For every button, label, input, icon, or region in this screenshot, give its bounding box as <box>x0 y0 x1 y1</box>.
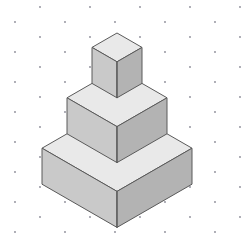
grid-dot <box>189 96 191 98</box>
grid-dot <box>89 6 91 8</box>
grid-dot <box>64 21 66 23</box>
grid-dot <box>114 21 116 23</box>
grid-dot <box>239 66 241 68</box>
grid-dot <box>239 96 241 98</box>
grid-dot <box>214 81 216 83</box>
grid-dot <box>239 36 241 38</box>
grid-dot <box>64 201 66 203</box>
grid-dot <box>214 201 216 203</box>
grid-dot <box>239 126 241 128</box>
grid-dot <box>214 111 216 113</box>
grid-dot <box>14 201 16 203</box>
grid-dot <box>39 126 41 128</box>
grid-dot <box>189 126 191 128</box>
grid-dot <box>39 66 41 68</box>
grid-dot <box>14 51 16 53</box>
isometric-pyramid-svg <box>0 0 244 247</box>
grid-dot <box>89 66 91 68</box>
grid-dot <box>189 66 191 68</box>
grid-dot <box>139 216 141 218</box>
grid-dot <box>214 141 216 143</box>
grid-dot <box>214 231 216 233</box>
grid-dot <box>164 81 166 83</box>
grid-dot <box>39 96 41 98</box>
grid-dot <box>39 36 41 38</box>
grid-dot <box>239 216 241 218</box>
grid-dot <box>14 21 16 23</box>
grid-dot <box>214 21 216 23</box>
grid-dot <box>239 6 241 8</box>
grid-dot <box>189 186 191 188</box>
grid-dot <box>164 51 166 53</box>
grid-dot <box>14 81 16 83</box>
grid-dot <box>39 216 41 218</box>
grid-dot <box>164 201 166 203</box>
grid-dot <box>64 81 66 83</box>
grid-dot <box>214 171 216 173</box>
figure-root <box>0 0 244 247</box>
grid-dot <box>39 6 41 8</box>
grid-dot <box>89 216 91 218</box>
grid-dot <box>14 171 16 173</box>
grid-dot <box>164 231 166 233</box>
grid-dot <box>114 231 116 233</box>
grid-dot <box>39 186 41 188</box>
grid-dot <box>239 156 241 158</box>
grid-dot <box>64 111 66 113</box>
grid-dot <box>14 141 16 143</box>
grid-dot <box>189 36 191 38</box>
grid-dot <box>139 6 141 8</box>
grid-dot <box>239 186 241 188</box>
grid-dot <box>64 231 66 233</box>
grid-dot <box>64 51 66 53</box>
grid-dot <box>14 111 16 113</box>
grid-dot <box>189 6 191 8</box>
grid-dot <box>214 51 216 53</box>
grid-dot <box>164 21 166 23</box>
grid-dot <box>89 36 91 38</box>
grid-dot <box>14 231 16 233</box>
grid-dot <box>139 36 141 38</box>
grid-dot <box>189 216 191 218</box>
grid-dot <box>39 156 41 158</box>
